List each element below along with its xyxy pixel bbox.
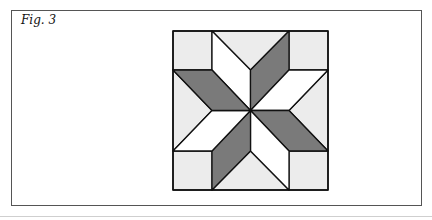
quilt-block-diagram: [0, 0, 432, 220]
page-bottom-rule: [0, 216, 432, 217]
corner-square-top-left: [173, 31, 212, 70]
corner-square-bottom-left: [173, 151, 212, 190]
corner-square-bottom-right: [289, 151, 328, 190]
corner-square-top-right: [289, 31, 328, 70]
